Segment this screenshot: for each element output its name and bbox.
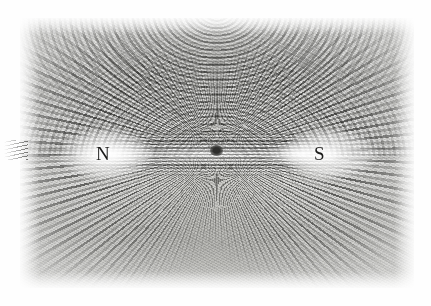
stray-filings-left-margin <box>4 140 28 160</box>
iron-filings-photograph: N S <box>20 18 414 288</box>
figure-page: N S <box>0 0 431 306</box>
photo-edge-fade <box>20 18 414 288</box>
